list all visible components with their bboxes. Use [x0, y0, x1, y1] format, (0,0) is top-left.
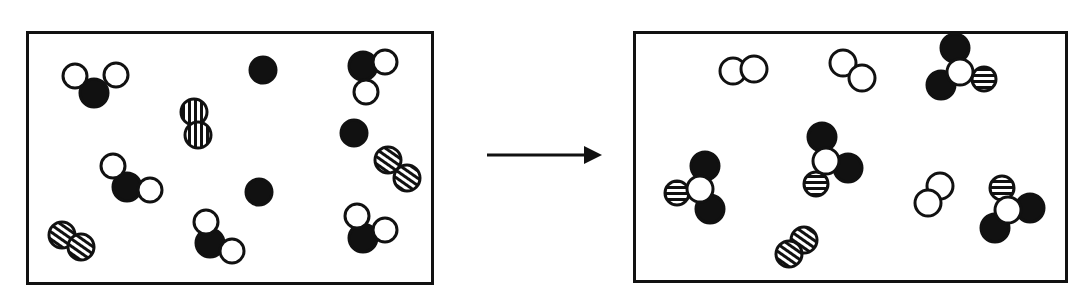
molecule-L4: [347, 48, 399, 106]
molecule-R2: [828, 48, 877, 93]
molecule-R5: [663, 150, 726, 225]
molecule-L6: [99, 152, 164, 204]
molecule-L5: [339, 118, 369, 148]
molecule-L9: [47, 220, 96, 262]
molecule-L3: [248, 55, 278, 85]
molecule-R6: [913, 171, 955, 218]
molecule-L2: [179, 97, 213, 150]
molecule-R8: [774, 225, 819, 269]
particle-diagram: [0, 0, 1092, 307]
molecule-L7: [373, 145, 422, 193]
molecule-R4: [802, 121, 864, 198]
molecule-L1: [61, 61, 130, 109]
molecule-L8: [244, 177, 274, 207]
molecule-R3: [925, 32, 998, 101]
molecule-L10: [192, 208, 246, 265]
molecule-R1: [718, 54, 769, 86]
reaction-arrow: [487, 138, 604, 172]
molecule-L11: [343, 202, 399, 254]
molecule-R7: [979, 174, 1046, 244]
